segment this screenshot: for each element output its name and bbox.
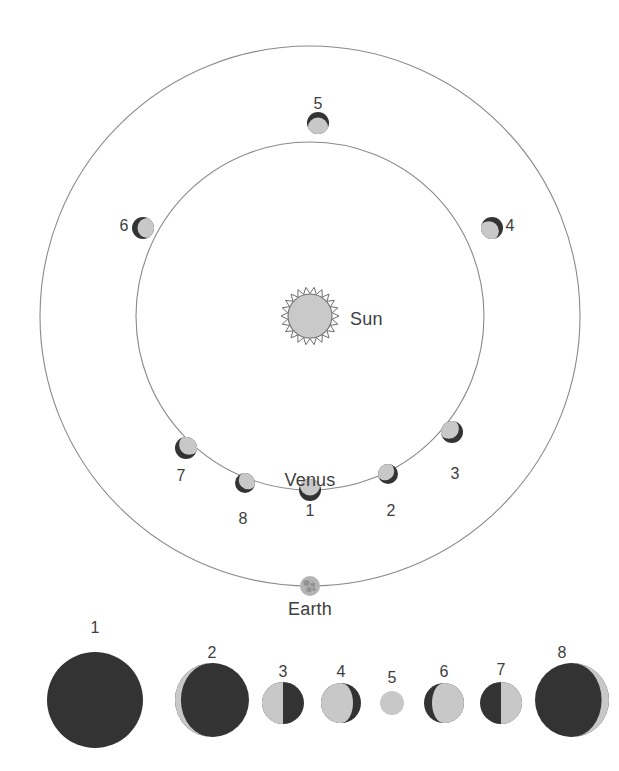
phase-disk-7-lit-side <box>501 681 523 725</box>
phase-disk-1-dark-full <box>47 652 143 748</box>
phase-disk-3-lit-side <box>261 681 283 725</box>
earth-label: Earth <box>288 600 332 618</box>
phase-disk-8-lit-side <box>542 662 610 738</box>
sun-icon <box>281 287 339 344</box>
orbit-venus-3-lit-side <box>439 419 459 439</box>
venus-label: Venus <box>284 471 335 489</box>
phase-disk-label-7: 7 <box>496 662 505 678</box>
phase-disk-label-6: 6 <box>439 664 448 680</box>
phase-disk-5-lit-full <box>380 691 404 715</box>
diagram-canvas <box>0 0 619 771</box>
orbit-position-label-5: 5 <box>313 96 322 112</box>
phase-disk-label-5: 5 <box>387 670 396 686</box>
orbit-venus-5-lit-side <box>308 118 328 138</box>
venus-phases-diagram: Sun Venus Earth 1234567812345678 <box>0 0 619 771</box>
earth-disk <box>300 576 320 596</box>
earth-landmass-1 <box>304 580 310 586</box>
earth-landmass-3 <box>306 587 311 592</box>
orbit-position-label-3: 3 <box>450 466 459 482</box>
sun-label: Sun <box>350 310 383 328</box>
orbit-venus-2-lit-side <box>376 462 394 480</box>
orbit-venus-7-lit-side <box>179 435 199 455</box>
earth-landmass-4 <box>312 587 316 591</box>
phase-disk-label-3: 3 <box>278 664 287 680</box>
orbit-position-label-4: 4 <box>505 218 514 234</box>
phase-disk-label-1: 1 <box>90 620 99 636</box>
phase-disk-4-lit-side <box>320 682 353 724</box>
orbit-venus-8-lit-side <box>239 471 257 489</box>
earth-icon <box>300 576 320 596</box>
orbit-position-label-6: 6 <box>119 218 128 234</box>
sun-disk <box>288 294 332 338</box>
orbit-venus-4-lit-side <box>479 221 499 241</box>
phase-disk-label-8: 8 <box>557 645 566 661</box>
phase-disk-6-lit-side <box>432 682 465 724</box>
orbit-position-label-1: 1 <box>305 503 314 519</box>
phase-disk-label-2: 2 <box>207 645 216 661</box>
venus-phase-row <box>47 652 610 748</box>
orbit-position-label-7: 7 <box>176 468 185 484</box>
orbit-venus-6-lit-side <box>138 218 158 238</box>
phase-disk-label-4: 4 <box>336 664 345 680</box>
phase-disk-2-lit-side <box>174 662 243 738</box>
orbit-position-label-2: 2 <box>386 503 395 519</box>
orbit-position-label-8: 8 <box>238 511 247 527</box>
earth-landmass-2 <box>310 582 315 587</box>
